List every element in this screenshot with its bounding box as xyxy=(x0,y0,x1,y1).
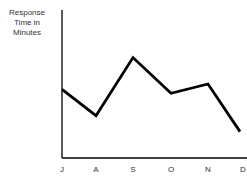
x-tick-label: N xyxy=(205,165,211,174)
x-tick-label: O xyxy=(168,165,174,174)
data-line xyxy=(62,58,240,132)
x-tick-label: A xyxy=(93,165,99,174)
line-chart: JASOND xyxy=(0,0,247,189)
x-tick-labels: JASOND xyxy=(60,165,246,174)
x-tick-label: J xyxy=(60,165,64,174)
x-tick-label: D xyxy=(240,165,246,174)
x-tick-label: S xyxy=(130,165,135,174)
